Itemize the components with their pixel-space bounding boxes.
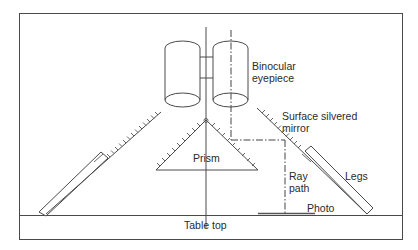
label-legs: Legs: [345, 170, 368, 182]
label-eyepiece: eyepiece: [252, 72, 296, 84]
label-prism: Prism: [193, 152, 220, 164]
label-table-top: Table top: [184, 219, 227, 231]
left-eyepiece-cylinder: [165, 41, 200, 107]
label-ray-path: Ray path: [289, 170, 309, 194]
left-leg: [39, 152, 108, 216]
left-mirror: [46, 112, 161, 214]
label-surface-silvered: Surface silvered: [282, 110, 357, 122]
label-photo: Photo: [307, 202, 334, 214]
label-surface-silvered-mirror: Surface silvered mirror: [282, 110, 357, 134]
label-binocular: Binocular: [252, 60, 296, 72]
label-mirror: mirror: [282, 122, 357, 134]
label-binocular-eyepiece: Binocular eyepiece: [252, 60, 296, 84]
label-path: path: [289, 182, 309, 194]
label-ray: Ray: [289, 170, 309, 182]
